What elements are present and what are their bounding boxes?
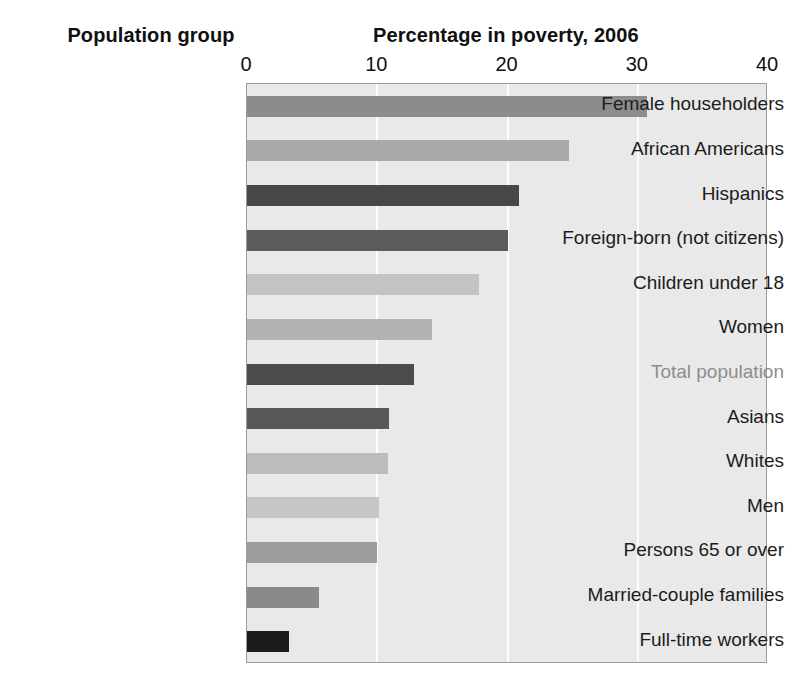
bar — [247, 185, 519, 206]
bar — [247, 453, 388, 474]
y-axis-label: Married-couple families — [558, 584, 794, 606]
bar — [247, 230, 508, 251]
y-axis-label: Hispanics — [558, 183, 794, 205]
y-axis-label: Men — [558, 495, 794, 517]
y-axis-label: Full-time workers — [558, 629, 794, 651]
y-axis-label: Female householders — [558, 93, 794, 115]
y-axis-label: Foreign-born (not citizens) — [558, 227, 794, 249]
x-axis-tick-10: 10 — [365, 53, 387, 76]
bar — [247, 408, 389, 429]
bar — [247, 542, 377, 563]
bar — [247, 497, 379, 518]
bar — [247, 587, 319, 608]
y-axis-label: Total population — [558, 361, 794, 383]
poverty-bar-chart: Population group Percentage in poverty, … — [0, 0, 794, 688]
x-axis-tick-40: 40 — [756, 53, 778, 76]
x-axis-tick-30: 30 — [626, 53, 648, 76]
x-axis-tick-20: 20 — [495, 53, 517, 76]
population-group-heading: Population group — [56, 24, 246, 47]
y-axis-label: African Americans — [558, 138, 794, 160]
y-axis-label: Whites — [558, 450, 794, 472]
gridline-20 — [507, 84, 509, 662]
bar — [247, 319, 432, 340]
y-axis-label: Asians — [558, 406, 794, 428]
chart-title: Percentage in poverty, 2006 — [373, 24, 639, 47]
bar — [247, 364, 414, 385]
bar — [247, 631, 289, 652]
y-axis-label: Children under 18 — [558, 272, 794, 294]
x-axis-tick-0: 0 — [240, 53, 251, 76]
y-axis-label: Women — [558, 316, 794, 338]
bar — [247, 274, 479, 295]
y-axis-label: Persons 65 or over — [558, 539, 794, 561]
bar — [247, 140, 569, 161]
